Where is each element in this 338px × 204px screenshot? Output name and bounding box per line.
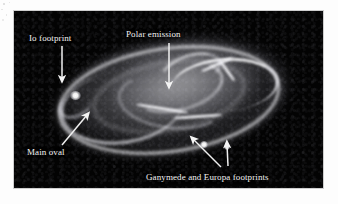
page-canvas: Io footprint Polar emission Main oval Ga… (0, 0, 338, 204)
io-footprint-spot (70, 91, 81, 100)
scan-artifact-speckle (3, 3, 5, 5)
scan-artifact-speckle (6, 14, 7, 16)
scan-artifact-speckle (2, 19, 4, 21)
ganymede-footprint-spot (200, 141, 208, 148)
europa-footprint-spot (224, 144, 230, 150)
io-footprint-label: Io footprint (29, 33, 71, 43)
scan-artifact-speckle (1, 9, 3, 10)
main-oval-label: Main oval (27, 147, 65, 157)
ganymede-europa-footprints-label: Ganymede and Europa footprints (146, 172, 269, 182)
scan-artifact-speckle (9, 2, 10, 3)
polar-emission-label: Polar emission (126, 29, 181, 39)
